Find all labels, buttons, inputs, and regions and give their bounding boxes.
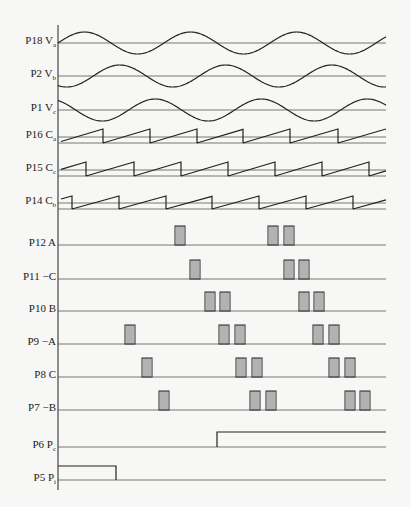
sawtooth-p14	[61, 196, 386, 209]
trigger-pulse	[236, 358, 246, 377]
trigger-pulse	[250, 391, 260, 410]
trigger-pulse	[159, 391, 169, 410]
trigger-pulse	[284, 226, 294, 245]
label-p11: P11 −C	[0, 270, 56, 282]
label-p7: P7 −B	[0, 401, 56, 413]
trigger-pulse	[175, 226, 185, 245]
trigger-pulse	[299, 260, 309, 279]
trigger-pulse	[219, 325, 229, 344]
sawtooth-p15	[61, 162, 386, 176]
trigger-pulse	[345, 358, 355, 377]
timing-diagram	[0, 0, 411, 507]
trigger-pulse	[329, 325, 339, 344]
trigger-pulse	[345, 391, 355, 410]
label-p5: P5 Pi	[0, 471, 56, 486]
trigger-pulse	[314, 292, 324, 311]
label-p14: P14 Cb	[0, 194, 56, 209]
trigger-pulse	[125, 325, 135, 344]
label-p2: P2 Vb	[0, 67, 56, 82]
trigger-pulse	[205, 292, 215, 311]
label-p8: P8 C	[0, 368, 56, 380]
label-p12: P12 A	[0, 236, 56, 248]
label-p6: P6 Pc	[0, 438, 56, 453]
trigger-pulse	[190, 260, 200, 279]
label-p16: P16 Ca	[0, 128, 56, 143]
label-p1: P1 Vc	[0, 101, 56, 116]
label-p10: P10 B	[0, 302, 56, 314]
label-p15: P15 Cc	[0, 161, 56, 176]
label-p9: P9 −A	[0, 335, 56, 347]
trigger-pulse	[235, 325, 245, 344]
trigger-pulse	[329, 358, 339, 377]
trigger-pulse	[360, 391, 370, 410]
trigger-pulse	[266, 391, 276, 410]
trigger-pulse	[220, 292, 230, 311]
trigger-pulse	[299, 292, 309, 311]
trigger-pulse	[268, 226, 278, 245]
trigger-pulse	[252, 358, 262, 377]
trigger-pulse	[313, 325, 323, 344]
step-signal-p6	[217, 432, 386, 447]
label-p18: P18 Va	[0, 34, 56, 49]
sawtooth-p16	[61, 129, 386, 143]
trigger-pulse	[142, 358, 152, 377]
trigger-pulse	[284, 260, 294, 279]
step-signal-p5	[58, 466, 116, 480]
